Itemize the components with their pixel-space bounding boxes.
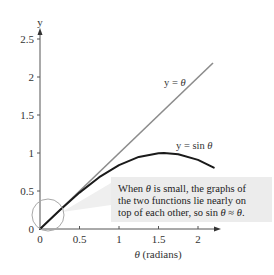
y-tick-1.5: 1.5 [20, 109, 34, 121]
y-axis-label: y [37, 16, 43, 28]
x-tick-1.5: 1.5 [152, 233, 166, 245]
callout-line-1: When θ is small, the graphs of [118, 183, 246, 194]
y-tick-0.5: 0.5 [20, 185, 34, 197]
x-axis-label: θ (radians) [134, 248, 182, 261]
y-tick-0: 0 [29, 223, 35, 235]
y-axis-arrow-icon [38, 28, 43, 35]
label-y-equals-sin-theta: y = sin θ [176, 140, 212, 151]
label-y-equals-theta: y = θ [164, 77, 186, 88]
callout-line-2: the two functions lie nearly on [118, 195, 247, 206]
x-axis-arrow-icon [214, 227, 221, 232]
x-tick-0: 0 [37, 233, 43, 245]
callout-line-3: top of each other, so sin θ ≈ θ. [118, 207, 245, 218]
x-tick-1: 1 [116, 233, 122, 245]
small-angle-highlight-circle [32, 199, 64, 231]
x-tick-2: 2 [195, 233, 201, 245]
x-tick-0.5: 0.5 [73, 233, 87, 245]
y-tick-2.5: 2.5 [20, 33, 34, 45]
y-tick-1: 1 [29, 147, 35, 159]
sin-vs-theta-chart: 0 0.5 1 1.5 2 2.5 y 0 0.5 1 1.5 2 θ (rad… [0, 0, 274, 275]
y-tick-2: 2 [29, 71, 35, 83]
